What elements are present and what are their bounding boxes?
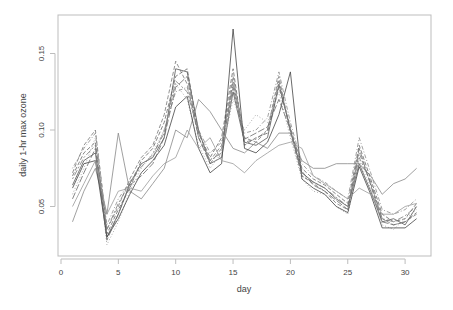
- x-tick-label: 20: [286, 268, 295, 277]
- plot-box: [58, 15, 431, 256]
- x-tick-label: 0: [59, 268, 64, 277]
- y-axis: 0.050.100.15: [37, 45, 55, 214]
- x-tick-label: 30: [401, 268, 410, 277]
- ozone-line-chart: 051015202530 0.050.100.15 day daily 1-hr…: [0, 0, 453, 310]
- x-tick-label: 25: [343, 268, 352, 277]
- x-axis: 051015202530: [59, 259, 410, 277]
- x-axis-label: day: [237, 284, 252, 294]
- x-tick-label: 15: [229, 268, 238, 277]
- series-lines: [73, 29, 417, 245]
- series-line: [73, 76, 417, 240]
- x-tick-label: 5: [116, 268, 121, 277]
- series-line: [73, 130, 417, 214]
- y-axis-label: daily 1-hr max ozone: [18, 93, 28, 177]
- series-line: [73, 99, 417, 221]
- y-tick-label: 0.05: [37, 198, 46, 214]
- y-tick-label: 0.15: [37, 45, 46, 61]
- y-tick-label: 0.10: [37, 122, 46, 138]
- series-line: [73, 69, 417, 234]
- x-tick-label: 10: [171, 268, 180, 277]
